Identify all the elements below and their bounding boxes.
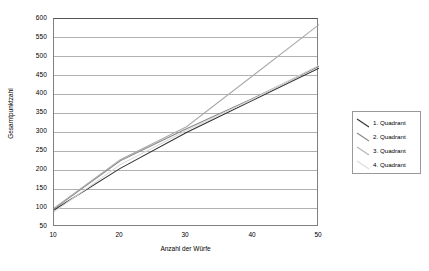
legend-line-icon [356,118,370,128]
x-tick-label: 30 [173,231,197,238]
y-tick-label: 350 [36,109,47,116]
series-lines [54,19,319,227]
legend-line-icon [356,132,370,142]
y-tick-label: 500 [36,53,47,60]
y-tick-label: 300 [36,128,47,135]
legend-item-label: 4. Quadrant [373,162,406,168]
legend-line-icon [356,146,370,156]
y-tick-label: 400 [36,90,47,97]
y-tick-label: 150 [36,185,47,192]
line-chart: 600 550 500 450 400 350 300 250 200 150 … [0,0,429,271]
legend-item[interactable]: 4. Quadrant [356,158,417,172]
y-tick-label: 200 [36,166,47,173]
series-line [54,68,319,210]
y-tick-label: 50 [40,223,47,230]
legend-item[interactable]: 3. Quadrant [356,144,417,158]
x-tick-label: 10 [41,231,65,238]
legend-item-label: 1. Quadrant [373,120,406,126]
legend-item-label: 2. Quadrant [373,134,406,140]
legend-line-icon [356,160,370,170]
y-tick-label: 550 [36,34,47,41]
x-tick-label: 20 [107,231,131,238]
x-tick-label: 50 [306,231,330,238]
legend-item-label: 3. Quadrant [373,148,406,154]
chart-legend: 1. Quadrant 2. Quadrant 3. Quadrant 4. Q… [352,111,421,174]
legend-item[interactable]: 1. Quadrant [356,116,417,130]
x-tick-label: 40 [240,231,264,238]
y-tick-label: 450 [36,72,47,79]
plot-area [53,18,318,226]
y-tick-label: 600 [36,15,47,22]
y-axis-title: Gesamtpunktzahl [7,66,14,162]
y-tick-label: 250 [36,147,47,154]
x-axis-title: Anzahl der Würfe [53,245,318,252]
y-tick-label: 100 [36,204,47,211]
legend-item[interactable]: 2. Quadrant [356,130,417,144]
